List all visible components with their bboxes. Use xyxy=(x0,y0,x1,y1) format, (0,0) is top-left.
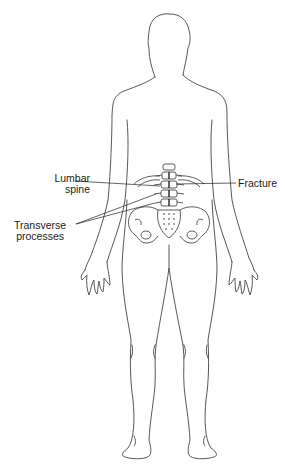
crotch xyxy=(156,268,183,345)
skeleton xyxy=(128,164,209,243)
torso-right-outline xyxy=(183,75,254,270)
left-acetabulum xyxy=(135,219,141,225)
left-obturator xyxy=(141,231,151,239)
pelvis-right xyxy=(180,207,210,243)
sacral-foramina xyxy=(163,213,175,230)
right-acetabulum xyxy=(197,219,203,225)
right-leg-outer xyxy=(183,200,217,459)
torso-left-outline xyxy=(85,77,155,270)
label-lumbar-line2: spine xyxy=(54,184,90,195)
right-ankle xyxy=(204,436,206,446)
label-transverse-processes: Transverse processes xyxy=(14,220,66,242)
right-inner-arm xyxy=(211,120,232,262)
label-fracture: Fracture xyxy=(238,178,277,189)
label-lumbar-spine: Lumbar spine xyxy=(54,173,90,195)
right-obturator xyxy=(187,231,197,239)
fracture-leader xyxy=(176,183,236,184)
left-inner-arm xyxy=(107,120,128,262)
transverse-leader-1 xyxy=(76,194,156,224)
head-outline xyxy=(148,14,190,77)
pelvis-left xyxy=(128,207,158,243)
right-knee-mark xyxy=(184,345,208,358)
lumbar-vertebrae xyxy=(154,164,184,206)
left-knee-mark xyxy=(131,345,155,358)
transverse-leader-2 xyxy=(76,203,155,224)
label-transverse-line2: processes xyxy=(14,231,66,242)
left-ankle xyxy=(134,436,136,446)
